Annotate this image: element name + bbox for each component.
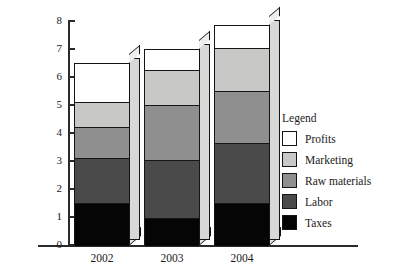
y-axis-tick [68, 48, 75, 49]
legend-items: ProfitsMarketingRaw materialsLaborTaxes [282, 130, 406, 231]
bar-segment-labor[interactable] [215, 144, 269, 204]
y-axis-tick-label: 6 [44, 71, 62, 82]
x-axis-label-2002: 2002 [67, 252, 137, 264]
y-axis-tick-label: 5 [44, 99, 62, 110]
legend-swatch-icon [282, 131, 297, 146]
bar-2003[interactable] [144, 49, 200, 245]
legend-item-label: Marketing [305, 154, 353, 166]
y-axis-tick-label: 0 [44, 239, 62, 250]
bar-3d-side-face [129, 58, 140, 240]
bar-2004[interactable] [214, 25, 270, 245]
bar-segment-taxes[interactable] [215, 204, 269, 246]
bar-segment-labor[interactable] [75, 159, 129, 204]
legend-swatch-icon [282, 173, 297, 188]
bar-segment-profits[interactable] [145, 50, 199, 71]
legend-item-labor[interactable]: Labor [282, 193, 406, 210]
legend-item-label: Raw materials [305, 175, 371, 187]
bar-segment-raw-materials[interactable] [75, 128, 129, 159]
x-axis-label-2003: 2003 [137, 252, 207, 264]
legend: Legend ProfitsMarketingRaw materialsLabo… [282, 112, 406, 235]
bar-segment-marketing[interactable] [75, 103, 129, 128]
y-axis-tick-label: 8 [44, 15, 62, 26]
legend-item-profits[interactable]: Profits [282, 130, 406, 147]
bar-segment-taxes[interactable] [145, 219, 199, 246]
y-axis-tick-label: 4 [44, 127, 62, 138]
bar-3d-side-face [269, 20, 280, 240]
y-axis-tick [68, 20, 75, 21]
legend-item-label: Labor [305, 196, 332, 208]
y-axis-tick-label: 1 [44, 211, 62, 222]
y-axis-tick-label: 2 [44, 183, 62, 194]
bar-segment-raw-materials[interactable] [215, 92, 269, 144]
legend-item-taxes[interactable]: Taxes [282, 214, 406, 231]
legend-swatch-icon [282, 194, 297, 209]
bar-2002[interactable] [74, 63, 130, 245]
bar-segment-marketing[interactable] [215, 49, 269, 92]
stacked-bar-chart: Amount (millions of dollars) 876543210 2… [0, 0, 409, 280]
bar-segment-raw-materials[interactable] [145, 106, 199, 161]
bar-segment-profits[interactable] [75, 64, 129, 103]
bar-segment-labor[interactable] [145, 161, 199, 220]
bar-segment-taxes[interactable] [75, 204, 129, 246]
x-axis-label-2004: 2004 [207, 252, 277, 264]
legend-item-label: Profits [305, 133, 336, 145]
legend-swatch-icon [282, 152, 297, 167]
legend-item-raw-materials[interactable]: Raw materials [282, 172, 406, 189]
bar-segment-profits[interactable] [215, 26, 269, 48]
legend-title: Legend [282, 112, 406, 124]
y-axis-tick-label: 7 [44, 43, 62, 54]
legend-item-label: Taxes [305, 217, 332, 229]
y-axis-tick-label: 3 [44, 155, 62, 166]
legend-swatch-icon [282, 215, 297, 230]
bar-3d-side-face [199, 44, 210, 240]
legend-item-marketing[interactable]: Marketing [282, 151, 406, 168]
bar-segment-marketing[interactable] [145, 71, 199, 106]
